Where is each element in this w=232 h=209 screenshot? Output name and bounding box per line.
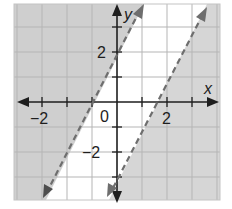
y-tick-label-neg2: −2 [82,144,100,161]
x-tick-label-neg2: −2 [30,110,48,127]
origin-label: 0 [100,108,109,125]
y-axis-label: y [123,6,133,23]
x-tick-label-2: 2 [162,110,171,127]
coordinate-plane: x y 0 −2 2 2 −2 [0,0,232,209]
x-axis-label: x [203,80,213,97]
y-tick-label-2: 2 [97,44,106,61]
